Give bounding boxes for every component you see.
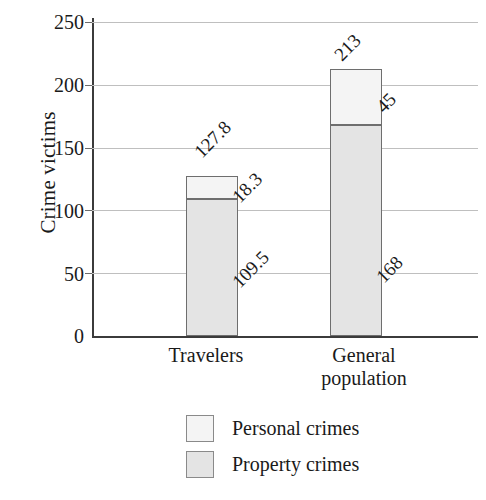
bar-segment-general-personal[interactable] — [330, 69, 382, 126]
gridline-150 — [92, 148, 478, 149]
y-tick-label-50: 50 — [26, 264, 84, 284]
gridline-250 — [92, 22, 478, 23]
value-label-general-total: 213 — [331, 30, 365, 64]
x-label-general-line1: General — [332, 344, 395, 366]
chart-legend: Personal crimes Property crimes — [186, 410, 359, 482]
gridline-50 — [92, 273, 478, 274]
x-label-general-population: General population — [276, 344, 452, 390]
legend-item-personal-crimes[interactable]: Personal crimes — [186, 410, 359, 446]
value-label-travelers-total: 127.8 — [191, 117, 235, 161]
bar-general-population[interactable] — [330, 69, 382, 337]
tick-200 — [85, 85, 92, 86]
bar-segment-travelers-property[interactable] — [186, 199, 238, 337]
bar-segment-general-property[interactable] — [330, 125, 382, 336]
stacked-bar-chart: Crime victims 250 200 150 100 50 0 — [0, 0, 486, 500]
y-tick-label-0: 0 — [26, 326, 84, 346]
x-axis-line — [92, 336, 478, 338]
legend-swatch-personal-crimes — [186, 415, 214, 442]
legend-swatch-property-crimes — [186, 451, 214, 478]
tick-50 — [85, 273, 92, 274]
legend-label-property-crimes: Property crimes — [232, 454, 359, 474]
tick-150 — [85, 148, 92, 149]
legend-label-personal-crimes: Personal crimes — [232, 418, 359, 438]
y-tick-label-100: 100 — [26, 201, 84, 221]
y-tick-label-200: 200 — [26, 75, 84, 95]
bar-travelers[interactable] — [186, 176, 238, 337]
tick-250 — [85, 22, 92, 23]
plot-area: 127.8 18.3 109.5 213 45 168 — [92, 22, 478, 336]
x-label-general-line2: population — [321, 367, 407, 389]
gridline-100 — [92, 210, 478, 211]
x-label-travelers-text: Travelers — [169, 344, 244, 366]
legend-item-property-crimes[interactable]: Property crimes — [186, 446, 359, 482]
gridline-200 — [92, 85, 478, 86]
x-label-travelers: Travelers — [126, 344, 286, 367]
tick-100 — [85, 210, 92, 211]
y-tick-label-250: 250 — [26, 12, 84, 32]
y-tick-label-150: 150 — [26, 138, 84, 158]
y-axis-tick-labels: 250 200 150 100 50 0 — [22, 0, 84, 500]
